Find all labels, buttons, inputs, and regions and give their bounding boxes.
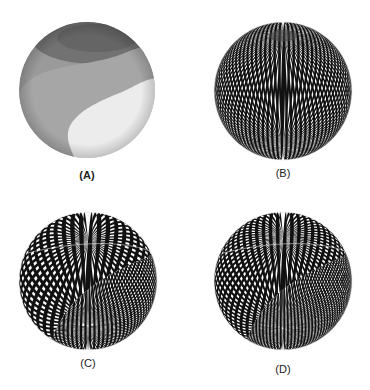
sphere-d-striped	[0, 0, 370, 390]
panel-d-label: (D)	[263, 363, 303, 375]
